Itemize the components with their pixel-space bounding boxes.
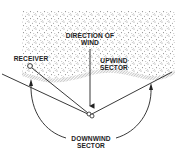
upwind-sector-label-line2: SECTOR — [100, 64, 128, 71]
receiver-label: RECEIVER — [14, 55, 49, 62]
downwind-sector-arc-left — [31, 84, 66, 138]
downwind-sector-label-line2: SECTOR — [77, 142, 105, 149]
right-boundary-line — [90, 72, 172, 115]
direction-of-wind-label: DIRECTION OF — [66, 32, 114, 39]
wind-sector-diagram: DIRECTION OF WIND UPWIND SECTOR RECEIVER… — [0, 0, 183, 159]
receiver-icon — [28, 64, 33, 69]
arc-arrowhead-left-icon — [29, 79, 33, 86]
source-point-icon-2 — [90, 114, 94, 118]
downwind-sector-label: DOWNWIND — [71, 135, 110, 142]
direction-of-wind-label-line2: WIND — [81, 39, 99, 46]
upwind-sector-label: UPWIND — [100, 57, 127, 64]
downwind-sector-arc-right — [116, 88, 151, 138]
upwind-sector-region — [22, 10, 175, 83]
